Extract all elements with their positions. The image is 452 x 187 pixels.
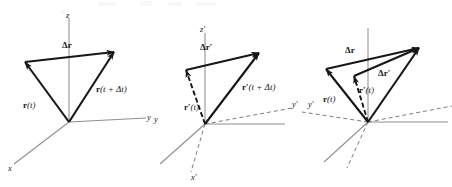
axis-x — [324, 122, 368, 162]
vector-label-r-prime-t-plus-dt: r′(t + Δt) — [242, 82, 275, 92]
vector-label-r-t-plus-dt: r(t + Δt) — [96, 84, 127, 94]
axis-label-z-prime: z′ — [199, 24, 205, 34]
vector-r-prime-t — [354, 76, 368, 122]
axis-y-prime-left-stub — [302, 112, 368, 122]
delta-r-prime-glyph: Δr′ — [378, 68, 390, 78]
r-arg: (t + Δt) — [100, 84, 127, 94]
axis-y-prime — [205, 108, 292, 124]
axis-y — [69, 118, 146, 122]
axis-x-prime — [347, 122, 368, 168]
axis-x — [14, 122, 69, 164]
vector-label-delta-r-prime: Δr′ — [378, 68, 390, 78]
vector-label-r-t: r(t) — [23, 100, 36, 110]
vector-label-r-prime-t: r′(t) — [184, 102, 199, 112]
delta-r-glyph: Δr — [345, 45, 355, 55]
vector-label-delta-r: Δr — [62, 40, 72, 50]
vector-r-prime-t — [186, 70, 205, 124]
r-arg: (t) — [366, 85, 375, 95]
panel-unprimed-frame: z y x Δr r(t + Δt) r(t) — [0, 0, 152, 187]
axis-label-y: y — [153, 114, 158, 124]
axis-label-y-prime: y′ — [291, 99, 298, 109]
vector-r-t — [25, 62, 69, 122]
r-arg: (t) — [327, 94, 336, 104]
vector-label-delta-r-prime: Δr′ — [200, 42, 212, 52]
axis-x — [160, 124, 205, 164]
vector-label-r-t: r(t) — [323, 94, 336, 104]
vector-displacement-figure: z y x Δr r(t + Δt) r(t) — [0, 0, 452, 187]
axis-label-z: z — [65, 10, 70, 20]
delta-r-prime-glyph: Δr′ — [200, 42, 212, 52]
axis-y-prime — [368, 106, 452, 122]
r-arg: (t) — [191, 102, 200, 112]
vector-label-delta-r: Δr — [345, 45, 355, 55]
axis-label-x: x — [7, 163, 12, 173]
axis-label-x-prime: x′ — [190, 172, 197, 182]
delta-r-glyph: Δr — [62, 40, 72, 50]
r-arg: (t + Δt) — [249, 82, 276, 92]
r-arg: (t) — [27, 100, 36, 110]
axis-label-y: y — [146, 112, 151, 122]
vector-label-r-prime-t: r′(t) — [359, 85, 374, 95]
axis-x-prime — [191, 124, 205, 172]
axis-label-y-prime: y′ — [307, 99, 314, 109]
panel-primed-frame: z′ y′ x′ y Δr′ r′(t + Δt) r′(t) — [152, 0, 302, 187]
panel-both-frames: y′ Δr Δr′ r(t) r′(t) — [302, 0, 452, 187]
vector-delta-r — [326, 48, 419, 69]
